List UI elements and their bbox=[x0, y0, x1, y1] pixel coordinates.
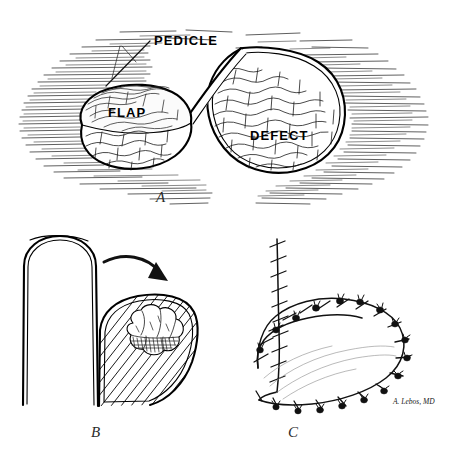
label-defect: DEFECT bbox=[250, 128, 309, 143]
pedicle-leader-lines bbox=[106, 41, 150, 86]
panel-a: PEDICLE FLAP DEFECT A bbox=[19, 30, 428, 205]
label-flap: FLAP bbox=[108, 105, 146, 120]
wound-contour-shading bbox=[264, 346, 396, 399]
rotation-arrow bbox=[104, 257, 168, 281]
figure-root: PEDICLE FLAP DEFECT A bbox=[0, 0, 451, 452]
panel-letter-a: A bbox=[155, 189, 166, 205]
surgical-illustration: PEDICLE FLAP DEFECT A bbox=[0, 0, 451, 452]
panel-c: A. Lebos, MD C bbox=[254, 239, 435, 440]
artist-signature: A. Lebos, MD bbox=[392, 397, 435, 406]
tissue-mass-b bbox=[127, 305, 183, 355]
label-pedicle: PEDICLE bbox=[154, 33, 218, 48]
panel-letter-c: C bbox=[288, 424, 299, 440]
flap-region bbox=[80, 85, 191, 170]
panel-letter-b: B bbox=[91, 424, 100, 440]
flap-outline-b bbox=[23, 236, 98, 406]
panel-b: B bbox=[23, 236, 270, 440]
vertical-suture-line bbox=[270, 239, 288, 392]
